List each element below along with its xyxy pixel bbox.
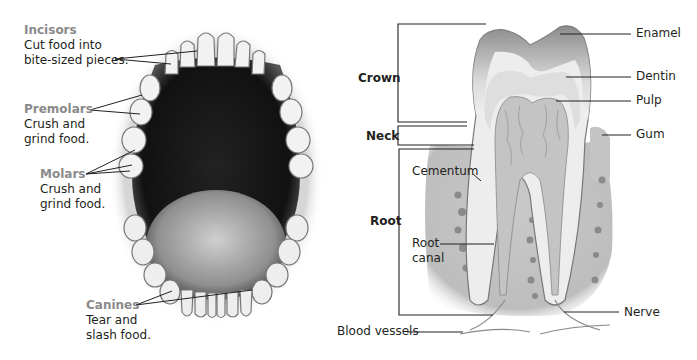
root-canal-label: Root canal: [412, 236, 444, 266]
tooth-cross-section: [398, 24, 631, 334]
molars-title: Molars: [40, 167, 105, 182]
premolars-label: Premolars Crush and grind food.: [24, 102, 93, 147]
pulp-label: Pulp: [636, 93, 662, 108]
incisors-title: Incisors: [24, 23, 128, 38]
cementum-label: Cementum: [412, 164, 478, 179]
enamel-label: Enamel: [636, 26, 681, 41]
gum-label: Gum: [636, 127, 665, 142]
canines-desc-line2: slash food.: [86, 328, 151, 343]
incisors-desc-line2: bite-sized pieces.: [24, 53, 128, 68]
root-canal-line2: canal: [412, 251, 444, 266]
root-label: Root: [370, 214, 401, 229]
canines-title: Canines: [86, 298, 151, 313]
molars-desc-line2: grind food.: [40, 197, 105, 212]
premolars-title: Premolars: [24, 102, 93, 117]
root-canal-line1: Root: [412, 236, 444, 251]
crown-label: Crown: [358, 71, 401, 86]
nerve-label: Nerve: [624, 305, 660, 320]
premolars-desc-line1: Crush and: [24, 117, 93, 132]
molars-label: Molars Crush and grind food.: [40, 167, 105, 212]
premolars-desc-line2: grind food.: [24, 132, 93, 147]
dentin-label: Dentin: [636, 69, 676, 84]
molars-desc-line1: Crush and: [40, 182, 105, 197]
canines-desc-line1: Tear and: [86, 313, 151, 328]
mouth-illustration: [86, 25, 324, 325]
neck-label: Neck: [366, 129, 399, 144]
incisors-label: Incisors Cut food into bite-sized pieces…: [24, 23, 128, 68]
blood-vessels-label: Blood vessels: [337, 324, 419, 339]
incisors-desc-line1: Cut food into: [24, 38, 128, 53]
canines-label: Canines Tear and slash food.: [86, 298, 151, 343]
